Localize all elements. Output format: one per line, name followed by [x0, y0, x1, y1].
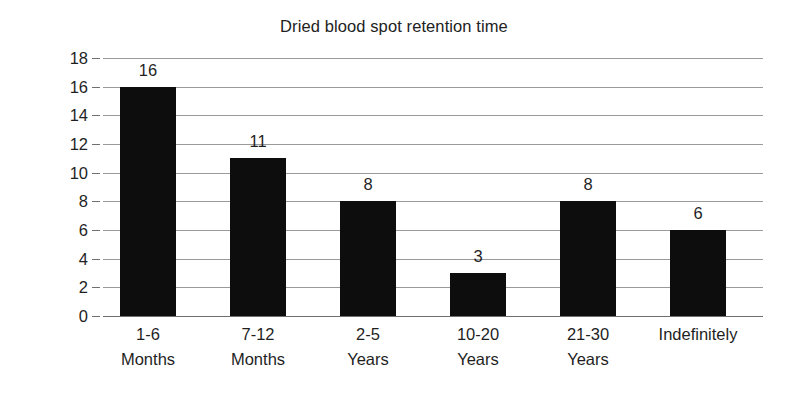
- gridline: [103, 144, 763, 145]
- gridline: [103, 259, 763, 260]
- x-axis-label-line-2: Months: [121, 347, 175, 372]
- bar-value-label: 8: [583, 175, 592, 194]
- gridline: [103, 287, 763, 288]
- x-axis-label-line-1: 7-12: [241, 325, 274, 343]
- y-axis-tick-label: 2: [48, 278, 88, 297]
- x-axis-category-label: 21-30Years: [567, 322, 609, 372]
- bar: [560, 201, 616, 316]
- bar: [230, 158, 286, 316]
- x-axis-category-label: 2-5Years: [347, 322, 389, 372]
- gridline: [103, 58, 763, 59]
- y-axis-tick-label: 10: [48, 163, 88, 182]
- x-axis-tick-labels: 1-6Months7-12Months2-5Years10-20Years21-…: [103, 322, 763, 392]
- y-axis-tick-mark: [92, 316, 100, 317]
- y-axis-tick-label: 4: [48, 249, 88, 268]
- bar-value-label: 11: [249, 132, 266, 151]
- x-axis-category-label: 10-20Years: [457, 322, 499, 372]
- y-axis-tick-mark: [92, 201, 100, 202]
- y-axis-tick-mark: [92, 87, 100, 88]
- x-axis-label-line-1: 21-30: [567, 325, 609, 343]
- bar-value-label: 3: [473, 247, 482, 266]
- y-axis-tick-mark: [92, 259, 100, 260]
- y-axis-tick-mark: [92, 115, 100, 116]
- y-axis-tick-mark: [92, 144, 100, 145]
- y-axis-tick-mark: [92, 287, 100, 288]
- plot-area: 16118386: [103, 58, 763, 316]
- bar: [450, 273, 506, 316]
- gridline: [103, 230, 763, 231]
- bar-value-label: 8: [363, 175, 372, 194]
- gridline: [103, 173, 763, 174]
- bar: [340, 201, 396, 316]
- x-axis-line: [103, 316, 763, 317]
- x-axis-label-line-2: Years: [347, 347, 389, 372]
- y-axis-tick-label: 8: [48, 192, 88, 211]
- x-axis-label-line-2: Years: [567, 347, 609, 372]
- gridline: [103, 115, 763, 116]
- y-axis-tick-label: 6: [48, 221, 88, 240]
- bar-value-label: 16: [139, 61, 157, 80]
- chart-title: Dried blood spot retention time: [0, 17, 788, 36]
- y-axis-tick-labels: 181614121086420: [44, 58, 88, 316]
- x-axis-label-line-1: 1-6: [136, 325, 160, 343]
- y-axis-tick-label: 16: [48, 77, 88, 96]
- bar-value-label: 6: [693, 204, 702, 223]
- bar: [670, 230, 726, 316]
- x-axis-label-line-1: 2-5: [356, 325, 380, 343]
- x-axis-label-line-1: 10-20: [457, 325, 499, 343]
- x-axis-label-line-2: Months: [231, 347, 285, 372]
- chart-figure: Dried blood spot retention time Number o…: [0, 0, 788, 395]
- x-axis-label-line-2: Years: [457, 347, 499, 372]
- y-axis-tick-label: 12: [48, 135, 88, 154]
- y-axis-tick-mark: [92, 230, 100, 231]
- x-axis-category-label: 7-12Months: [231, 322, 285, 372]
- x-axis-label-line-1: Indefinitely: [659, 325, 738, 343]
- y-axis-tick-mark: [92, 173, 100, 174]
- bar: [120, 87, 176, 316]
- gridline: [103, 201, 763, 202]
- y-axis-tick-label: 0: [48, 307, 88, 326]
- x-axis-category-label: 1-6Months: [121, 322, 175, 372]
- x-axis-category-label: Indefinitely: [659, 322, 738, 347]
- y-axis-tick-label: 18: [48, 49, 88, 68]
- y-axis-tick-mark: [92, 58, 100, 59]
- y-axis-tick-label: 14: [48, 106, 88, 125]
- gridline: [103, 87, 763, 88]
